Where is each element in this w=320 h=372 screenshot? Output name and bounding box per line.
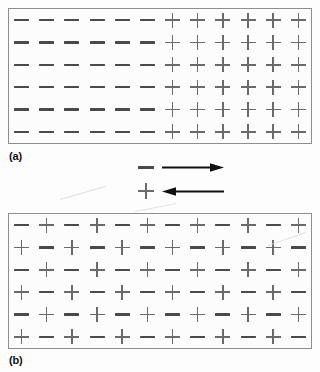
minus-charge-icon [59, 9, 84, 31]
plus-charge-icon [210, 121, 235, 143]
plus-charge-icon [185, 121, 210, 143]
plus-charge-icon [135, 303, 160, 325]
plus-charge-icon [185, 31, 210, 53]
minus-charge-icon [135, 9, 160, 31]
minus-charge-icon [84, 326, 109, 348]
minus-charge-icon [34, 236, 59, 258]
plus-charge-icon [185, 76, 210, 98]
plus-charge-icon [210, 9, 235, 31]
minus-charge-icon [185, 236, 210, 258]
plus-charge-icon [160, 236, 185, 258]
panel-b-label: (b) [9, 354, 22, 366]
minus-charge-icon [110, 303, 135, 325]
minus-charge-icon [59, 303, 84, 325]
minus-charge-icon [160, 303, 185, 325]
plus-charge-icon [84, 303, 109, 325]
plus-charge-icon [286, 121, 311, 143]
minus-charge-icon [34, 54, 59, 76]
plus-charge-icon [185, 54, 210, 76]
minus-charge-icon [59, 259, 84, 281]
minus-charge-icon [84, 76, 109, 98]
plus-charge-icon [110, 326, 135, 348]
plus-charge-icon [235, 98, 260, 120]
minus-charge-icon [235, 281, 260, 303]
plus-charge-icon [160, 76, 185, 98]
minus-charge-icon [286, 326, 311, 348]
minus-charge-icon [9, 121, 34, 143]
minus-charge-icon [9, 98, 34, 120]
minus-charge-icon [34, 9, 59, 31]
plus-charge-icon [261, 326, 286, 348]
plus-charge-icon [9, 326, 34, 348]
plus-charge-icon [110, 281, 135, 303]
plus-charge-icon [235, 259, 260, 281]
minus-charge-icon [34, 31, 59, 53]
minus-charge-icon [110, 54, 135, 76]
minus-charge-icon [84, 236, 109, 258]
plus-charge-icon [160, 281, 185, 303]
minus-charge-icon [135, 76, 160, 98]
plus-charge-icon [235, 76, 260, 98]
minus-charge-icon [34, 121, 59, 143]
legend-row-minus [130, 156, 230, 178]
plus-charge-icon [235, 303, 260, 325]
plus-charge-icon [59, 236, 84, 258]
minus-charge-icon [135, 121, 160, 143]
plus-charge-icon [210, 236, 235, 258]
plus-charge-icon [34, 259, 59, 281]
minus-charge-icon [9, 31, 34, 53]
minus-charge-icon [110, 31, 135, 53]
minus-sign-icon [135, 156, 157, 178]
plus-charge-icon [185, 259, 210, 281]
minus-charge-icon [135, 326, 160, 348]
plus-charge-icon [160, 31, 185, 53]
minus-charge-icon [34, 76, 59, 98]
plus-charge-icon [160, 98, 185, 120]
minus-charge-icon [261, 259, 286, 281]
arrow-right-icon [162, 163, 224, 172]
minus-charge-icon [34, 326, 59, 348]
minus-charge-icon [160, 214, 185, 236]
plus-charge-icon [286, 259, 311, 281]
minus-charge-icon [135, 98, 160, 120]
plus-charge-icon [160, 326, 185, 348]
plus-charge-icon [286, 303, 311, 325]
minus-charge-icon [9, 214, 34, 236]
minus-charge-icon [185, 281, 210, 303]
plus-charge-icon [160, 54, 185, 76]
minus-charge-icon [235, 236, 260, 258]
minus-charge-icon [110, 76, 135, 98]
minus-charge-icon [9, 9, 34, 31]
minus-charge-icon [135, 31, 160, 53]
minus-charge-icon [59, 214, 84, 236]
minus-charge-icon [59, 54, 84, 76]
plus-charge-icon [286, 9, 311, 31]
plus-charge-icon [110, 236, 135, 258]
plus-charge-icon [185, 98, 210, 120]
plus-charge-icon [261, 121, 286, 143]
minus-charge-icon [59, 31, 84, 53]
plus-charge-icon [261, 54, 286, 76]
plus-charge-icon [261, 9, 286, 31]
minus-charge-icon [160, 259, 185, 281]
plus-charge-icon [210, 281, 235, 303]
plus-charge-icon [59, 281, 84, 303]
plus-sign-icon [135, 180, 157, 202]
minus-charge-icon [261, 214, 286, 236]
plus-charge-icon [235, 54, 260, 76]
panel-a-label: (a) [9, 150, 22, 162]
minus-charge-icon [210, 303, 235, 325]
plus-charge-icon [286, 54, 311, 76]
minus-charge-icon [210, 259, 235, 281]
plus-charge-icon [261, 281, 286, 303]
minus-charge-icon [34, 98, 59, 120]
plus-charge-icon [210, 98, 235, 120]
minus-charge-icon [84, 31, 109, 53]
plus-charge-icon [9, 236, 34, 258]
plus-charge-icon [286, 214, 311, 236]
minus-charge-icon [34, 281, 59, 303]
panel-a [8, 8, 312, 144]
plus-charge-icon [9, 281, 34, 303]
minus-charge-icon [235, 326, 260, 348]
minus-charge-icon [261, 303, 286, 325]
